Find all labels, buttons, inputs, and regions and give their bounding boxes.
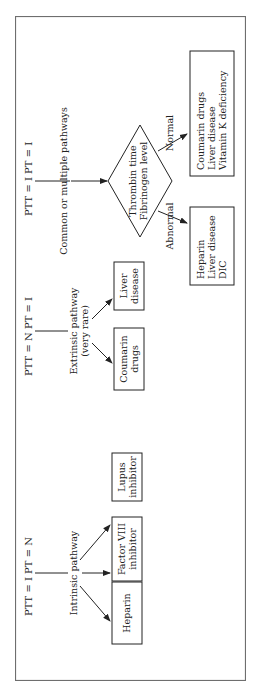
outcome-text: Coumarin drugs	[195, 92, 206, 170]
extrinsic-pathway-label: Extrinsic pathway	[68, 287, 79, 375]
common-header: PTT = I PT = I	[23, 142, 34, 216]
outcome-text: inhibitor	[127, 456, 138, 498]
common-group: PTT = I PT = I Common or multiple pathwa…	[23, 51, 234, 285]
extrinsic-pathway-note: (very rare)	[79, 305, 90, 357]
outcome-text: Coumarin	[118, 335, 129, 382]
outcome-text: Liver disease	[206, 106, 217, 170]
outcome-text: Liver	[118, 273, 129, 298]
common-pathway-label: Common or multiple pathways	[58, 107, 69, 255]
outcome-text: Heparin	[195, 240, 206, 279]
extrinsic-group: PTT = N PT = I Extrinsic pathway (very r…	[23, 262, 144, 390]
outcome-text: disease	[129, 268, 140, 304]
outcome-text: DIC	[217, 260, 228, 279]
outcome-text: inhibitor	[127, 528, 138, 570]
extrinsic-header: PTT = N PT = I	[23, 297, 34, 376]
decision-text: Fibrinogen level	[138, 142, 149, 221]
intrinsic-pathway-label: Intrinsic pathway	[68, 530, 79, 615]
outcome-text: Factor VIII	[116, 523, 127, 575]
branch-label-normal: Normal	[164, 115, 175, 151]
intrinsic-header: PTT = I PT = N	[23, 537, 34, 616]
outcome-text: Vitamin K deficiency	[217, 70, 228, 171]
branch-label-abnormal: Abnormal	[164, 202, 175, 250]
outcome-text: Lupus	[116, 462, 127, 492]
outcome-text: Heparin	[121, 593, 132, 632]
outcome-text: Liver disease	[206, 215, 217, 279]
intrinsic-group: PTT = I PT = N Intrinsic pathway Heparin…	[23, 453, 142, 644]
flowchart-diagram: PTT = I PT = N Intrinsic pathway Heparin…	[15, 16, 246, 681]
decision-text: Thrombin time	[127, 145, 138, 217]
outcome-text: drugs	[129, 345, 140, 373]
